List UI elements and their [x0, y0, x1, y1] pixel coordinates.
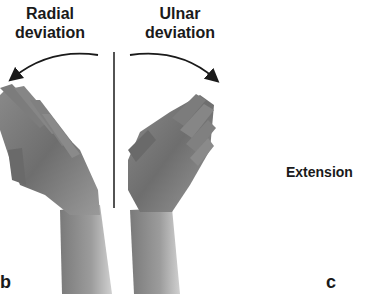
radial-arrow [14, 54, 98, 77]
left-hand-photo [0, 84, 112, 294]
ulnar-label-line2: deviation [132, 23, 228, 42]
panel-letter-c: c [326, 272, 336, 293]
extension-label: Extension [286, 163, 376, 182]
radial-label-line2: deviation [2, 23, 98, 42]
ulnar-deviation-label: Ulnar deviation [132, 4, 228, 42]
figure-illustration [0, 0, 376, 294]
panel-letter-b: b [0, 272, 11, 293]
radial-label-line1: Radial [2, 4, 98, 23]
ulnar-arrow [130, 54, 214, 78]
right-hand-photo [128, 94, 216, 294]
ulnar-label-line1: Ulnar [132, 4, 228, 23]
radial-deviation-label: Radial deviation [2, 4, 98, 42]
